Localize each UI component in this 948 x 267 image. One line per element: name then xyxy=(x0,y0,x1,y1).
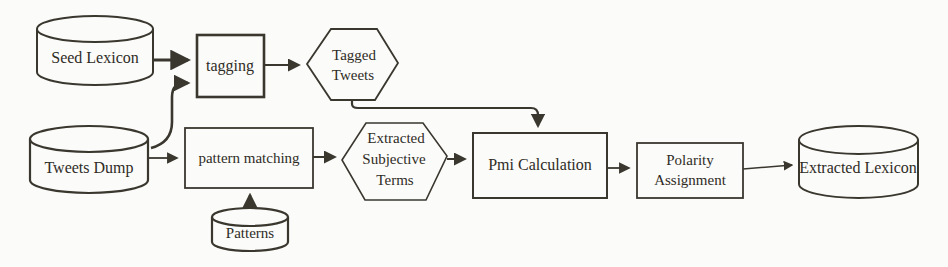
extracted-subjective-terms-label-line2: Subjective xyxy=(362,151,426,167)
tagging-label: tagging xyxy=(206,57,254,75)
node-patterns: Patterns xyxy=(212,208,288,251)
edge-polarity-assignment-to-extracted-lexicon xyxy=(743,165,792,169)
node-extracted-subjective-terms: Extracted Subjective Terms xyxy=(342,123,447,200)
extracted-subjective-terms-label-line3: Terms xyxy=(376,172,413,188)
polarity-assignment-label-line2: Assignment xyxy=(654,172,727,188)
tagged-tweets-hexagon xyxy=(307,29,398,100)
tweets-dump-label: Tweets Dump xyxy=(44,159,133,177)
edge-tagged-tweets-to-pmi-calculation xyxy=(352,100,538,126)
node-tweets-dump: Tweets Dump xyxy=(30,126,148,193)
node-pmi-calculation: Pmi Calculation xyxy=(473,133,607,198)
extracted-subjective-terms-label-line1: Extracted xyxy=(367,130,425,146)
node-tagged-tweets: Tagged Tweets xyxy=(307,29,398,100)
tweets-dump-cylinder-top xyxy=(30,126,148,152)
patterns-cylinder-top xyxy=(212,208,288,226)
seed-lexicon-label: Seed Lexicon xyxy=(51,49,139,66)
pmi-calculation-label: Pmi Calculation xyxy=(488,156,592,173)
pattern-matching-label: pattern matching xyxy=(198,150,300,166)
extracted-lexicon-cylinder-top xyxy=(799,126,918,154)
tagged-tweets-label-line2: Tweets xyxy=(332,67,374,83)
node-polarity-assignment: Polarity Assignment xyxy=(637,143,743,198)
tagged-tweets-label-line1: Tagged xyxy=(332,47,376,63)
node-pattern-matching: pattern matching xyxy=(185,128,313,188)
patterns-label: Patterns xyxy=(226,225,274,241)
flowchart-figure: Seed Lexicon tagging Tagged Tweets Tweet… xyxy=(0,0,948,267)
node-seed-lexicon: Seed Lexicon xyxy=(37,16,153,85)
seed-lexicon-cylinder-top xyxy=(37,16,153,42)
flowchart-canvas: Seed Lexicon tagging Tagged Tweets Tweet… xyxy=(0,0,948,267)
extracted-lexicon-label: Extracted Lexicon xyxy=(799,159,917,176)
node-extracted-lexicon: Extracted Lexicon xyxy=(799,126,918,198)
polarity-assignment-label-line1: Polarity xyxy=(666,152,714,168)
node-tagging: tagging xyxy=(197,35,264,97)
edge-tweets-dump-to-tagging xyxy=(151,83,188,148)
